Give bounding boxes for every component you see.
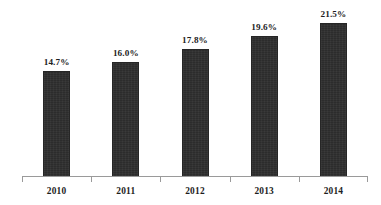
x-axis-tick — [367, 177, 368, 182]
bar-group-2010: 14.7% — [22, 0, 91, 177]
bar-2014 — [320, 23, 347, 177]
x-axis-tick — [299, 177, 300, 182]
x-axis-label-2010: 2010 — [22, 184, 91, 202]
x-axis-tick — [91, 177, 92, 182]
bar-2013 — [251, 36, 278, 177]
bar-value-label: 16.0% — [113, 49, 139, 58]
bar-value-label: 21.5% — [321, 10, 347, 19]
bar-2011 — [112, 62, 139, 177]
x-axis-labels: 2010 2011 2012 2013 2014 — [22, 184, 368, 202]
bar-group-2011: 16.0% — [91, 0, 160, 177]
plot-area: 14.7% 16.0% 17.8% 19.6% 21.5% — [0, 0, 381, 177]
bar-group-2013: 19.6% — [230, 0, 299, 177]
x-axis-label-2013: 2013 — [230, 184, 299, 202]
x-axis-tick — [230, 177, 231, 182]
bar-group-2012: 17.8% — [160, 0, 229, 177]
x-axis-tick — [22, 177, 23, 182]
bar-2012 — [182, 49, 209, 177]
bar-value-label: 17.8% — [182, 36, 208, 45]
x-axis-label-2012: 2012 — [160, 184, 229, 202]
x-axis-tick — [160, 177, 161, 182]
bar-2010 — [43, 71, 70, 177]
bar-chart: 14.7% 16.0% 17.8% 19.6% 21.5% 20 — [0, 0, 381, 205]
bars-container: 14.7% 16.0% 17.8% 19.6% 21.5% — [22, 0, 368, 177]
x-axis-ticks — [22, 177, 368, 182]
bar-group-2014: 21.5% — [299, 0, 368, 177]
bar-value-label: 14.7% — [44, 58, 70, 67]
bar-value-label: 19.6% — [251, 23, 277, 32]
x-axis-label-2011: 2011 — [91, 184, 160, 202]
x-axis-label-2014: 2014 — [299, 184, 368, 202]
